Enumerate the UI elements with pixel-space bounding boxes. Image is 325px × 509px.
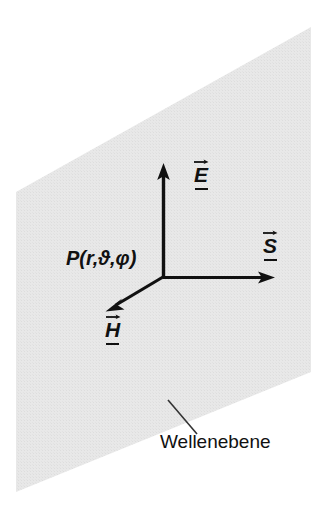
vector-label-H-underline	[106, 343, 119, 345]
vector-label-E-underline	[195, 188, 208, 190]
vector-label-E: E	[193, 157, 209, 190]
vector-label-S-glyph: S	[262, 235, 278, 256]
vector-arrow-accent-icon	[104, 312, 121, 319]
vector-label-S: S	[262, 228, 278, 261]
plane-caption: Wellenebene	[160, 432, 271, 451]
wave-plane-diagram: P(r,ϑ,φ) E S H	[0, 0, 325, 509]
vector-label-S-underline	[264, 259, 277, 261]
point-coordinate-label: P(r,ϑ,φ)	[66, 248, 136, 268]
vector-arrow-accent-icon	[262, 228, 278, 235]
vector-label-H-glyph: H	[104, 319, 121, 340]
vector-label-H: H	[104, 312, 121, 345]
vector-label-E-glyph: E	[193, 164, 209, 185]
vector-arrow-accent-icon	[193, 157, 209, 164]
